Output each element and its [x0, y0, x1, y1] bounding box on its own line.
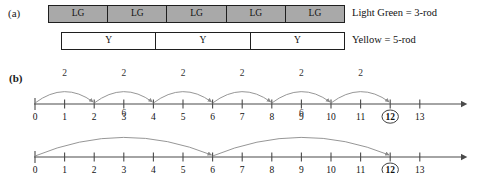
- tick-label: 6: [210, 112, 215, 122]
- highlight-circle: [382, 110, 398, 123]
- tick-label: 8: [269, 165, 274, 173]
- tick-label: 8: [269, 112, 274, 122]
- tick-label: 3: [121, 112, 126, 122]
- tick-label: 7: [240, 165, 245, 173]
- panel-a-label: (a): [8, 7, 20, 19]
- hop-arc: [35, 92, 93, 103]
- rod-cell: Y: [156, 33, 250, 49]
- tick-label: 1: [62, 112, 67, 122]
- rod-cell: LG: [227, 6, 286, 22]
- rod-cell: LG: [49, 6, 108, 22]
- tick-label: 1: [62, 165, 67, 173]
- hop-label: 2: [181, 68, 186, 78]
- highlight-circle: [382, 163, 398, 173]
- light-green-rod-bar: LG LG LG LG LG: [48, 5, 345, 23]
- tick-label: 13: [415, 165, 425, 173]
- hop-label: 6: [299, 108, 304, 118]
- hop-arc: [213, 92, 271, 103]
- rod-cell: LG: [167, 6, 226, 22]
- hop-label: 2: [299, 68, 304, 78]
- tick-label: 5: [181, 112, 186, 122]
- tick-label: 13: [415, 112, 425, 122]
- rod-cell: LG: [286, 6, 344, 22]
- tick-label: 11: [356, 112, 365, 122]
- number-line-sixes: 01234567891011121366: [33, 108, 462, 173]
- hop-arc: [213, 137, 390, 156]
- rod-cell: LG: [108, 6, 167, 22]
- number-lines-svg: 012345678910111213222222 012345678910111…: [0, 0, 499, 173]
- tick-label-highlighted: 12: [385, 112, 395, 122]
- tick-label: 0: [33, 165, 38, 173]
- yellow-rod-bar: Y Y Y: [61, 32, 345, 50]
- tick-label: 5: [181, 165, 186, 173]
- tick-label: 2: [92, 112, 97, 122]
- rod-cell: Y: [62, 33, 156, 49]
- tick-label: 0: [33, 112, 38, 122]
- tick-label: 7: [240, 112, 245, 122]
- tick-label: 10: [326, 165, 336, 173]
- tick-label: 2: [92, 165, 97, 173]
- rod-cell: Y: [251, 33, 344, 49]
- tick-label: 9: [299, 112, 304, 122]
- figure-container: (a) LG LG LG LG LG Y Y Y Light Green = 3…: [0, 0, 499, 173]
- tick-label-highlighted: 12: [385, 165, 395, 173]
- hop-arc: [35, 137, 212, 156]
- hop-arc: [331, 92, 389, 103]
- tick-label: 11: [356, 165, 365, 173]
- tick-label: 6: [210, 165, 215, 173]
- hop-arc: [272, 92, 330, 103]
- tick-label: 4: [151, 165, 156, 173]
- hop-label: 2: [62, 68, 67, 78]
- tick-label: 4: [151, 112, 156, 122]
- tick-label: 3: [121, 165, 126, 173]
- hop-arc: [94, 92, 152, 103]
- panel-b-label: (b): [9, 72, 22, 84]
- yellow-legend-label: Yellow = 5-rod: [352, 34, 416, 45]
- light-green-legend-label: Light Green = 3-rod: [352, 7, 437, 18]
- tick-label: 10: [326, 112, 336, 122]
- hop-label: 2: [121, 68, 126, 78]
- hop-label: 6: [121, 108, 126, 118]
- tick-label: 9: [299, 165, 304, 173]
- number-line-twos: 012345678910111213222222: [33, 68, 462, 123]
- hop-arc: [153, 92, 211, 103]
- hop-label: 2: [358, 68, 363, 78]
- hop-label: 2: [240, 68, 245, 78]
